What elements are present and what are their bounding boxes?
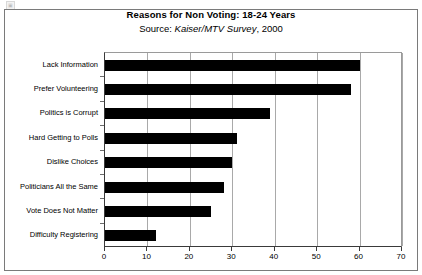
category-label-6: Politicians All the Same — [20, 174, 98, 198]
chart-subtitle: Source: Kaiser/MTV Survey, 2000 — [0, 23, 422, 34]
page-title: Reasons for Non Voting: 18-24 Years — [0, 9, 422, 20]
bar-7 — [105, 206, 211, 217]
y-axis-tick — [100, 125, 104, 126]
bar-row — [105, 175, 403, 199]
category-label-8: Difficulty Registering — [30, 223, 98, 247]
bar-row — [105, 151, 403, 175]
bar-8 — [105, 230, 156, 241]
category-label-3: Politics is Corrupt — [40, 101, 98, 125]
subtitle-source-year: , 2000 — [256, 23, 282, 34]
x-axis-tick-40 — [274, 247, 275, 251]
category-label-4: Hard Getting to Polls — [29, 125, 98, 149]
x-axis-tick-50 — [316, 247, 317, 251]
x-axis-label-40: 40 — [269, 252, 278, 261]
y-axis-tick — [100, 174, 104, 175]
subtitle-source-label: Source: — [139, 23, 172, 34]
bar-3 — [105, 108, 270, 119]
category-label-2: Prefer Volunteering — [34, 76, 98, 100]
x-axis-label-0: 0 — [102, 252, 106, 261]
x-axis-label-70: 70 — [397, 252, 406, 261]
category-label-1: Lack Information — [43, 52, 98, 76]
x-axis-tick-10 — [146, 247, 147, 251]
y-axis-tick — [100, 198, 104, 199]
x-axis-label-30: 30 — [227, 252, 236, 261]
y-axis-tick — [100, 76, 104, 77]
bar-row — [105, 199, 403, 223]
bar-5 — [105, 157, 232, 168]
bar-row — [105, 53, 403, 77]
bar-row — [105, 224, 403, 248]
subtitle-source-name: Kaiser/MTV Survey — [175, 23, 257, 34]
bar-row — [105, 126, 403, 150]
x-axis-label-10: 10 — [142, 252, 151, 261]
y-axis-tick — [100, 150, 104, 151]
category-label-7: Vote Does Not Matter — [26, 198, 98, 222]
y-axis-tick — [100, 101, 104, 102]
x-axis-tick-30 — [231, 247, 232, 251]
category-label-5: Dislike Choices — [47, 150, 98, 174]
x-axis-label-20: 20 — [184, 252, 193, 261]
bar-4 — [105, 133, 237, 144]
x-axis-tick-labels: 010203040506070 — [104, 252, 402, 266]
bar-row — [105, 77, 403, 101]
x-axis-tick-0 — [104, 247, 105, 251]
bar-row — [105, 102, 403, 126]
x-axis-label-60: 60 — [354, 252, 363, 261]
x-axis-label-50: 50 — [312, 252, 321, 261]
bar-2 — [105, 84, 351, 95]
chart-title-block: Reasons for Non Voting: 18-24 Years Sour… — [0, 9, 422, 34]
bar-6 — [105, 182, 224, 193]
category-axis-labels: Lack InformationPrefer VolunteeringPolit… — [0, 52, 101, 247]
x-axis-tick-60 — [359, 247, 360, 251]
plot-area — [104, 52, 402, 247]
bar-series — [105, 53, 401, 246]
bar-1 — [105, 60, 360, 71]
x-axis-tick-70 — [401, 247, 402, 251]
y-axis-tick — [100, 223, 104, 224]
x-axis-tick-20 — [189, 247, 190, 251]
